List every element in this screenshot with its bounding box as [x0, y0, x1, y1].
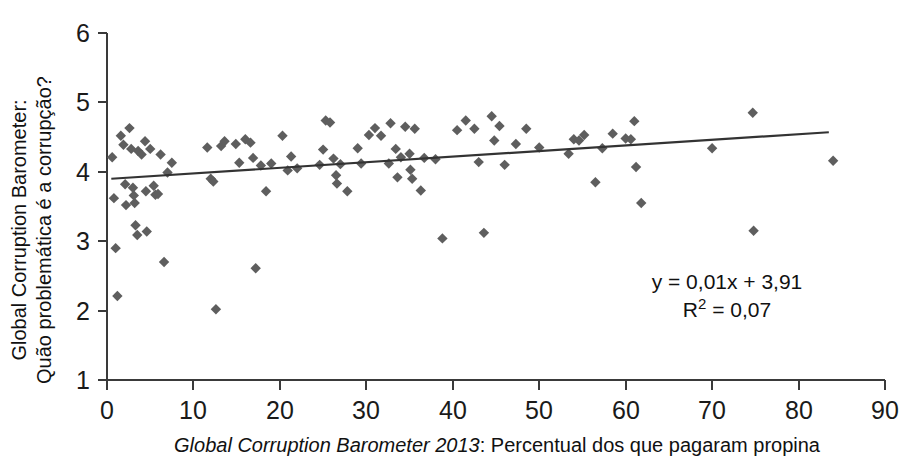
data-point-marker [231, 139, 241, 149]
data-point-marker [469, 124, 479, 134]
y-axis-title: Global Corruption Barometer: Quão proble… [8, 76, 55, 384]
data-point-marker [132, 230, 142, 240]
data-point-marker [748, 226, 758, 236]
data-point-marker [489, 135, 499, 145]
data-point-marker [511, 139, 521, 149]
data-point-marker [364, 130, 374, 140]
data-point-marker [211, 304, 221, 314]
r-squared-prefix: R [683, 298, 698, 321]
data-point-marker [629, 116, 639, 126]
data-point-marker [828, 155, 838, 165]
x-axis-title: Global Corruption Barometer 2013: Percen… [174, 434, 821, 456]
data-point-marker [410, 124, 420, 134]
data-point-marker [116, 131, 126, 141]
y-tick-label: 6 [76, 19, 90, 47]
data-point-marker [332, 178, 342, 188]
data-point-marker [391, 144, 401, 154]
data-point-marker [352, 143, 362, 153]
data-point-marker [250, 263, 260, 273]
scatter-chart-figure: 6 5 4 3 2 1 0 10 20 30 40 50 60 70 80 90… [0, 0, 909, 462]
x-tick-label: 40 [439, 396, 467, 424]
regression-r-squared: R2 = 0,07 [683, 295, 771, 321]
data-point-marker [277, 131, 287, 141]
y-tick-label: 5 [76, 88, 90, 116]
data-point-marker [400, 121, 410, 131]
data-point-marker [392, 172, 402, 182]
data-point-marker [437, 233, 447, 243]
regression-annotation: y = 0,01x + 3,91 R2 = 0,07 [652, 270, 803, 321]
x-tick-label: 80 [785, 396, 813, 424]
data-point-marker [129, 198, 139, 208]
x-axis-title-rest: : Percentual dos que pagaram propina [480, 434, 821, 456]
y-tick-label: 2 [76, 297, 90, 325]
data-point-marker [148, 180, 158, 190]
r-squared-exponent: 2 [698, 295, 706, 312]
data-point-marker [494, 121, 504, 131]
r-squared-value: = 0,07 [706, 298, 771, 321]
y-axis-title-line2: Quão problemática é a corrupção? [33, 76, 55, 384]
data-point-marker [405, 165, 415, 175]
data-point-marker [155, 149, 165, 159]
data-point-marker [121, 200, 131, 210]
data-point-marker [385, 118, 395, 128]
data-point-marker [521, 124, 531, 134]
regression-equation: y = 0,01x + 3,91 [652, 270, 803, 293]
data-point-marker [370, 123, 380, 133]
data-point-marker [109, 193, 119, 203]
trendline [111, 132, 828, 178]
data-point-marker [416, 185, 426, 195]
data-point-marker [707, 143, 717, 153]
data-point-marker [286, 151, 296, 161]
data-point-marker [159, 257, 169, 267]
data-point-marker [748, 108, 758, 118]
y-tick-label: 1 [76, 366, 90, 394]
data-point-marker [110, 243, 120, 253]
data-point-marker [608, 128, 618, 138]
x-axis-ticks [107, 380, 885, 390]
data-point-marker [331, 170, 341, 180]
x-tick-label: 60 [612, 396, 640, 424]
x-tick-label: 20 [266, 396, 294, 424]
y-axis-title-line1: Global Corruption Barometer: [8, 99, 30, 360]
data-point-marker [474, 157, 484, 167]
data-point-marker [141, 186, 151, 196]
data-point-marker [499, 160, 509, 170]
data-point-marker [261, 186, 271, 196]
x-axis-title-italic: Global Corruption Barometer 2013 [174, 434, 480, 456]
data-point-marker [107, 152, 117, 162]
data-point-marker [318, 144, 328, 154]
x-tick-label: 0 [100, 396, 114, 424]
x-tick-label: 50 [525, 396, 553, 424]
y-tick-label: 4 [76, 158, 90, 186]
data-point-marker [140, 136, 150, 146]
data-point-marker [130, 220, 140, 230]
data-point-marker [234, 158, 244, 168]
data-point-marker [430, 154, 440, 164]
data-point-marker [636, 198, 646, 208]
data-point-marker [590, 177, 600, 187]
data-point-marker [202, 142, 212, 152]
data-point-marker [124, 123, 134, 133]
x-tick-label: 90 [871, 396, 899, 424]
data-point-marker [376, 131, 386, 141]
y-tick-label: 3 [76, 227, 90, 255]
y-axis-ticks [98, 33, 107, 380]
chart-svg: 6 5 4 3 2 1 0 10 20 30 40 50 60 70 80 90… [0, 0, 909, 462]
data-point-marker [342, 186, 352, 196]
x-tick-label: 30 [352, 396, 380, 424]
data-point-marker [486, 111, 496, 121]
y-tick-labels: 6 5 4 3 2 1 [76, 19, 90, 394]
data-point-marker [461, 115, 471, 125]
data-point-marker [479, 228, 489, 238]
data-point-marker [292, 163, 302, 173]
data-point-marker [407, 174, 417, 184]
data-point-marker [452, 125, 462, 135]
data-point-marker [112, 291, 122, 301]
x-tick-labels: 0 10 20 30 40 50 60 70 80 90 [100, 396, 899, 424]
data-point-marker [145, 144, 155, 154]
data-point-marker [142, 226, 152, 236]
data-point-marker [167, 158, 177, 168]
x-tick-label: 10 [179, 396, 207, 424]
data-point-marker [631, 162, 641, 172]
data-point-marker [248, 153, 258, 163]
